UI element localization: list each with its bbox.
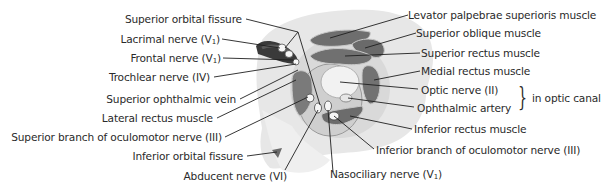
label-inferior-branch-oculomotor: Inferior branch of oculomotor nerve (III…: [376, 144, 580, 156]
label-frontal-nerve: Frontal nerve (V1): [130, 52, 221, 64]
label-levator-palpebrae: Levator palpebrae superioris muscle: [408, 9, 596, 21]
label-superior-oblique: Superior oblique muscle: [416, 27, 541, 39]
label-lacrimal-nerve: Lacrimal nerve (V1): [120, 33, 220, 45]
orbit-apex-diagram: Superior orbital fissure Lacrimal nerve …: [0, 0, 610, 195]
label-optic-nerve: Optic nerve (II): [421, 84, 498, 96]
label-inferior-orbital-fissure: Inferior orbital fissure: [132, 150, 243, 162]
label-trochlear-nerve: Trochlear nerve (IV): [109, 71, 210, 83]
optic-canal-brace: }: [518, 84, 527, 110]
label-medial-rectus: Medial rectus muscle: [421, 65, 530, 77]
label-nasociliary-nerve: Nasociliary nerve (V1): [330, 168, 442, 180]
label-superior-orbital-fissure: Superior orbital fissure: [125, 13, 242, 25]
label-in-optic-canal: in optic canal: [532, 92, 601, 104]
label-inferior-rectus: Inferior rectus muscle: [414, 123, 526, 135]
label-abducent-nerve: Abducent nerve (VI): [183, 170, 287, 182]
label-lateral-rectus-muscle: Lateral rectus muscle: [102, 112, 213, 124]
label-superior-rectus: Superior rectus muscle: [421, 47, 540, 59]
label-ophthalmic-artery: Ophthalmic artery: [417, 102, 511, 114]
label-superior-ophthalmic-vein: Superior ophthalmic vein: [106, 93, 236, 105]
label-superior-branch-oculomotor: Superior branch of oculomotor nerve (III…: [11, 131, 222, 143]
